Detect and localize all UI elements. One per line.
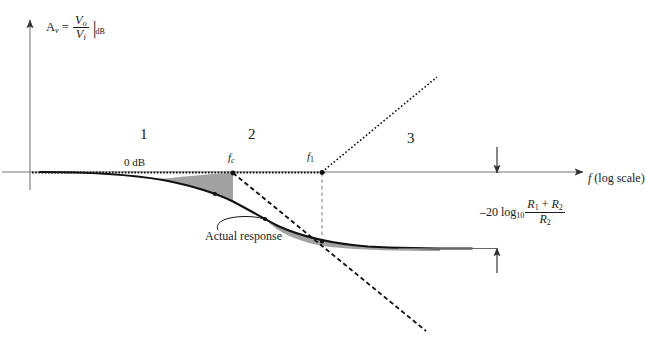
gain-drop-fraction: R1+R2R2 (525, 198, 564, 228)
curve-point-f1 (320, 170, 325, 175)
y-axis-symbol: A (46, 20, 55, 34)
gain-drop-denominator: R2 (525, 213, 564, 227)
shaded-deviation-region-right (265, 219, 440, 251)
zero-db-label: 0 dB (124, 157, 145, 168)
gain-drop-expression: –20 log10R1+R2R2 (480, 198, 566, 228)
y-axis-fraction-numerator: Vo (73, 14, 89, 28)
rising-asymptote-dotted (322, 77, 437, 172)
falling-asymptote-dashed (233, 173, 426, 331)
x-axis-label: f (log scale) (588, 172, 645, 184)
region-label-3: 3 (407, 131, 415, 146)
fc-subscript: c (231, 156, 235, 165)
bode-plot-figure: Av=VoVi|dB 1 2 3 0 dB fc f1 Actual respo… (0, 0, 646, 349)
region-label-2: 2 (248, 127, 256, 142)
y-axis-equals: = (62, 20, 69, 34)
curve-point-deviation-right (320, 239, 324, 243)
gain-drop-log-base: 10 (516, 211, 524, 220)
y-axis-symbol-subscript: v (55, 25, 59, 35)
actual-response-label: Actual response (205, 230, 282, 242)
region-label-1: 1 (140, 127, 148, 142)
y-axis-label: Av=VoVi|dB (46, 14, 105, 42)
y-axis-unit-subscript: dB (96, 27, 105, 36)
x-axis-scale-note: (log scale) (591, 171, 644, 185)
curve-point-fc (231, 171, 236, 176)
gain-drop-numerator: R1+R2 (525, 198, 564, 213)
y-axis-fraction-denominator: Vi (73, 28, 89, 41)
plot-canvas (0, 0, 646, 349)
y-axis-fraction: VoVi (73, 14, 89, 42)
f1-marker-label: f1 (307, 151, 314, 164)
actual-response-leader-line (217, 217, 264, 230)
f1-subscript: 1 (310, 155, 314, 164)
curve-point-deviation-left (213, 192, 217, 196)
gain-drop-prefix: –20 log (480, 205, 516, 219)
fc-marker-label: fc (228, 152, 235, 165)
